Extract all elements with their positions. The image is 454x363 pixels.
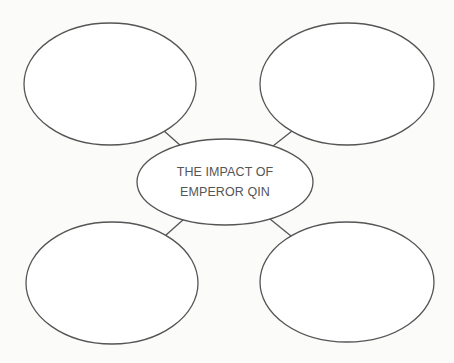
center-title-line-1: THE IMPACT OF [177, 162, 274, 182]
center-title-line-2: EMPEROR QIN [180, 182, 270, 202]
bubble-top-left [24, 23, 196, 145]
center-title: THE IMPACT OF EMPEROR QIN [137, 139, 313, 225]
bubble-bottom-left [26, 222, 198, 344]
bubble-top-right [260, 23, 434, 145]
bubble-bottom-right [260, 222, 434, 342]
